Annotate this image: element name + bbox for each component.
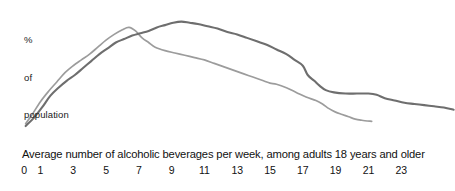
- y-axis-label-line-2: of: [24, 72, 69, 85]
- x-tick-label-13: 13: [231, 164, 242, 177]
- x-axis-caption: Average number of alcoholic beverages pe…: [22, 148, 425, 161]
- y-axis-label-line-1: %: [24, 34, 69, 47]
- y-axis-label: % of population: [24, 9, 69, 147]
- series-light-gray-line: [26, 27, 372, 123]
- x-tick-label-1: 1: [38, 164, 44, 177]
- x-tick-label-23: 23: [395, 164, 406, 177]
- x-tick-label-21: 21: [363, 164, 374, 177]
- x-tick-label-15: 15: [264, 164, 275, 177]
- x-tick-label-5: 5: [103, 164, 109, 177]
- x-tick-label-7: 7: [136, 164, 142, 177]
- x-tick-label-19: 19: [330, 164, 341, 177]
- x-tick-label-9: 9: [169, 164, 175, 177]
- x-tick-label-11: 11: [199, 164, 210, 177]
- x-axis-tick-labels: 01357911131517192123: [0, 164, 455, 180]
- x-tick-label-17: 17: [297, 164, 308, 177]
- chart-container: % of population Average number of alcoho…: [0, 0, 455, 191]
- x-tick-label-0: 0: [21, 164, 27, 177]
- series-dark-gray-line: [26, 22, 454, 126]
- y-axis-label-line-3: population: [24, 109, 69, 122]
- x-tick-label-3: 3: [70, 164, 76, 177]
